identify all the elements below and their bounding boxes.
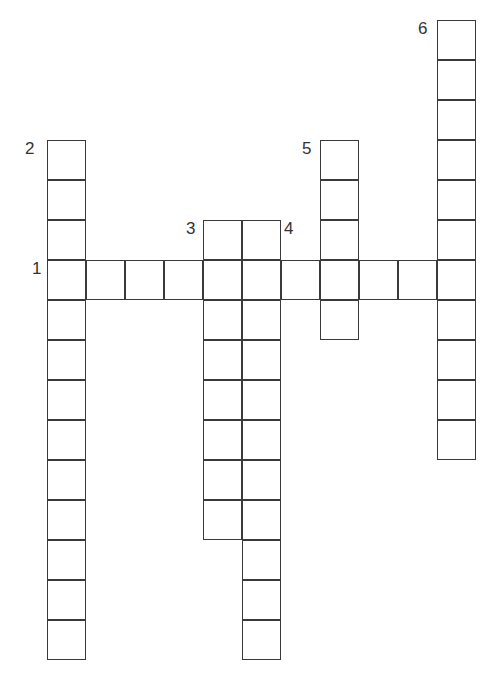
crossword-cell[interactable] (47, 340, 86, 380)
crossword-cell[interactable] (242, 580, 281, 620)
crossword-cell[interactable] (242, 420, 281, 460)
crossword-cell[interactable] (125, 260, 164, 300)
crossword-cell[interactable] (437, 60, 476, 100)
clue-number-2: 2 (25, 140, 34, 157)
crossword-cell[interactable] (86, 260, 125, 300)
crossword-cell[interactable] (164, 260, 203, 300)
clue-number-6: 6 (418, 20, 427, 37)
crossword-cell[interactable] (47, 460, 86, 500)
crossword-cell[interactable] (242, 540, 281, 580)
crossword-cell[interactable] (47, 380, 86, 420)
crossword-cell[interactable] (437, 380, 476, 420)
crossword-cell[interactable] (47, 140, 86, 180)
crossword-cell[interactable] (437, 140, 476, 180)
crossword-cell[interactable] (203, 220, 242, 260)
crossword-cell[interactable] (203, 260, 242, 300)
crossword-cell[interactable] (437, 220, 476, 260)
crossword-cell[interactable] (47, 420, 86, 460)
crossword-cell[interactable] (320, 300, 359, 340)
crossword-cell[interactable] (47, 260, 86, 300)
crossword-cell[interactable] (437, 180, 476, 220)
clue-number-3: 3 (186, 220, 195, 237)
crossword-cell[interactable] (47, 300, 86, 340)
crossword-cell[interactable] (242, 340, 281, 380)
crossword-cell[interactable] (242, 220, 281, 260)
crossword-cell[interactable] (242, 300, 281, 340)
crossword-cell[interactable] (281, 260, 320, 300)
crossword-cell[interactable] (242, 620, 281, 660)
crossword-cell[interactable] (320, 260, 359, 300)
crossword-cell[interactable] (242, 380, 281, 420)
crossword-cell[interactable] (437, 340, 476, 380)
crossword-cell[interactable] (242, 260, 281, 300)
crossword-cell[interactable] (47, 540, 86, 580)
crossword-cell[interactable] (203, 460, 242, 500)
crossword-cell[interactable] (398, 260, 437, 300)
clue-number-1: 1 (32, 260, 41, 277)
crossword-cell[interactable] (203, 420, 242, 460)
crossword-cell[interactable] (320, 140, 359, 180)
crossword-cell[interactable] (242, 500, 281, 540)
crossword-cell[interactable] (437, 300, 476, 340)
crossword-cell[interactable] (47, 220, 86, 260)
crossword-cell[interactable] (242, 460, 281, 500)
crossword-cell[interactable] (320, 220, 359, 260)
crossword-cell[interactable] (320, 180, 359, 220)
crossword-cell[interactable] (47, 620, 86, 660)
crossword-cell[interactable] (203, 380, 242, 420)
crossword-cell[interactable] (437, 260, 476, 300)
crossword-cell[interactable] (47, 180, 86, 220)
crossword-cell[interactable] (47, 580, 86, 620)
crossword-cell[interactable] (203, 340, 242, 380)
crossword-cell[interactable] (47, 500, 86, 540)
crossword-cell[interactable] (437, 100, 476, 140)
crossword-cell[interactable] (437, 20, 476, 60)
crossword-cell[interactable] (203, 300, 242, 340)
crossword-cell[interactable] (203, 500, 242, 540)
clue-number-4: 4 (284, 220, 293, 237)
clue-number-5: 5 (302, 140, 311, 157)
crossword-cell[interactable] (437, 420, 476, 460)
crossword-cell[interactable] (359, 260, 398, 300)
